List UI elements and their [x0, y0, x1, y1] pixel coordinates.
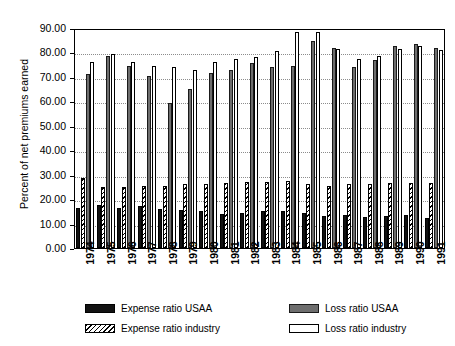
y-axis-tick-label: 30.00	[8, 170, 66, 181]
x-axis-tick: 1974	[74, 251, 95, 297]
x-axis-tick: 1982	[239, 251, 260, 297]
bar-expense-ratio-usaa	[138, 206, 142, 248]
bar-group	[362, 30, 383, 248]
x-axis-tick: 1975	[95, 251, 116, 297]
y-axis-tick-mark	[70, 249, 74, 250]
bar-loss-ratio-industry	[131, 62, 135, 248]
bar-group	[157, 30, 178, 248]
bar-group	[280, 30, 301, 248]
bar-loss-ratio-usaa	[250, 63, 254, 248]
legend-swatch-expense-ratio-industry	[85, 324, 115, 333]
bar-loss-ratio-industry	[234, 59, 238, 248]
bar-expense-ratio-industry	[306, 184, 310, 248]
bar-loss-ratio-usaa	[291, 66, 295, 248]
x-axis-tick: 1986	[321, 251, 342, 297]
bar-expense-ratio-industry	[183, 184, 187, 248]
bar-loss-ratio-industry	[152, 66, 156, 248]
bar-expense-ratio-industry	[122, 187, 126, 248]
legend-label-expense-ratio-industry: Expense ratio industry	[121, 323, 220, 334]
bar-group	[178, 30, 199, 248]
bar-loss-ratio-usaa	[147, 76, 151, 248]
bar-loss-ratio-industry	[213, 62, 217, 248]
y-axis-tick-label: 10.00	[8, 219, 66, 230]
x-axis-tick: 1980	[198, 251, 219, 297]
bar-loss-ratio-industry	[316, 32, 320, 248]
bar-expense-ratio-industry	[224, 183, 228, 248]
bar-loss-ratio-usaa	[270, 67, 274, 248]
x-axis-tick: 1990	[404, 251, 425, 297]
bar-loss-ratio-industry	[357, 59, 361, 248]
bar-loss-ratio-usaa	[168, 103, 172, 248]
bar-loss-ratio-usaa	[393, 46, 397, 248]
bar-loss-ratio-usaa	[106, 56, 110, 248]
bar-loss-ratio-usaa	[188, 89, 192, 248]
bar-loss-ratio-industry	[275, 51, 279, 248]
chart-root: Percent of net premiums earned 90.0080.0…	[0, 0, 455, 346]
bar-loss-ratio-industry	[295, 32, 299, 248]
bar-expense-ratio-usaa	[261, 211, 265, 248]
y-axis-tick-label: 40.00	[8, 145, 66, 156]
bar-expense-ratio-industry	[409, 183, 413, 248]
bar-loss-ratio-usaa	[414, 44, 418, 248]
x-axis-tick: 1984	[280, 251, 301, 297]
bar-loss-ratio-industry	[398, 49, 402, 248]
bar-loss-ratio-industry	[254, 57, 258, 248]
bar-expense-ratio-usaa	[117, 208, 121, 248]
legend-item-loss-ratio-industry: Loss ratio industry	[289, 323, 406, 334]
legend-label-expense-ratio-usaa: Expense ratio USAA	[121, 303, 212, 314]
bar-loss-ratio-usaa	[86, 74, 90, 248]
x-axis-tick: 1977	[136, 251, 157, 297]
bar-expense-ratio-usaa	[76, 208, 80, 248]
bar-expense-ratio-industry	[265, 182, 269, 248]
bar-loss-ratio-usaa	[229, 70, 233, 248]
bar-loss-ratio-industry	[111, 54, 115, 248]
bar-group	[137, 30, 158, 248]
bar-group	[116, 30, 137, 248]
bar-loss-ratio-usaa	[127, 66, 131, 248]
bar-expense-ratio-industry	[142, 186, 146, 248]
chart-legend: Expense ratio USAA Expense ratio industr…	[0, 303, 455, 343]
bar-loss-ratio-industry	[90, 62, 94, 248]
bar-loss-ratio-industry	[439, 50, 443, 248]
bar-expense-ratio-usaa	[220, 214, 224, 248]
x-axis-tick: 1989	[383, 251, 404, 297]
y-axis-tick-label: 70.00	[8, 72, 66, 83]
legend-label-loss-ratio-usaa: Loss ratio USAA	[325, 303, 398, 314]
x-axis-tick: 1985	[301, 251, 322, 297]
bar-group	[321, 30, 342, 248]
x-axis-tick: 1988	[363, 251, 384, 297]
y-axis-tick-label: 50.00	[8, 121, 66, 132]
legend-swatch-expense-ratio-usaa	[85, 304, 115, 313]
bar-group	[424, 30, 445, 248]
legend-item-loss-ratio-usaa: Loss ratio USAA	[289, 303, 398, 314]
bar-group	[342, 30, 363, 248]
y-axis-tick-label: 90.00	[8, 23, 66, 34]
legend-item-expense-ratio-industry: Expense ratio industry	[85, 323, 220, 334]
plot-area	[74, 29, 445, 249]
x-axis-tick: 1976	[115, 251, 136, 297]
bar-loss-ratio-industry	[418, 46, 422, 248]
y-axis-tick-label: 0.00	[8, 243, 66, 254]
bar-expense-ratio-industry	[286, 181, 290, 248]
x-axis-tick-label: 1991	[435, 241, 447, 264]
bar-expense-ratio-industry	[101, 187, 105, 248]
x-axis-tick: 1991	[424, 251, 445, 297]
bar-group	[239, 30, 260, 248]
bar-loss-ratio-usaa	[352, 67, 356, 248]
x-axis-tick: 1983	[259, 251, 280, 297]
bar-expense-ratio-industry	[204, 184, 208, 248]
y-axis-tick-label: 20.00	[8, 194, 66, 205]
bar-expense-ratio-usaa	[97, 205, 101, 249]
bar-groups	[75, 30, 444, 248]
bar-expense-ratio-industry	[81, 178, 85, 248]
bar-group	[75, 30, 96, 248]
bar-loss-ratio-usaa	[434, 48, 438, 248]
bar-expense-ratio-industry	[327, 186, 331, 248]
legend-swatch-loss-ratio-usaa	[289, 304, 319, 313]
legend-swatch-loss-ratio-industry	[289, 324, 319, 333]
y-axis-tick-label: 60.00	[8, 96, 66, 107]
bar-expense-ratio-industry	[429, 183, 433, 249]
bar-expense-ratio-industry	[388, 183, 392, 248]
bar-expense-ratio-industry	[368, 184, 372, 248]
bar-loss-ratio-industry	[336, 49, 340, 248]
